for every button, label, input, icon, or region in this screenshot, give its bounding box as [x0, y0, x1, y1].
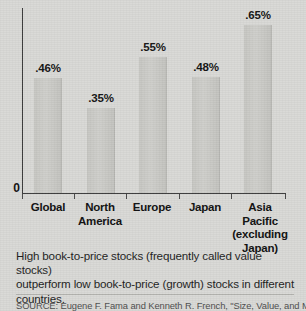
category-label-line: (excluding — [231, 228, 289, 242]
bar-value-north-america: .35% — [71, 92, 131, 104]
bar-north-america — [87, 108, 115, 193]
caption-line-1: High book-to-price stocks (frequently ca… — [16, 249, 294, 277]
bar-chart-figure: 0 .46% .35% .55% .48% .65% Global North … — [0, 0, 306, 311]
category-label-line: Europe — [126, 201, 178, 215]
x-axis-tick — [22, 194, 23, 199]
x-axis-tick — [231, 194, 232, 199]
bar-europe — [139, 57, 167, 193]
bar-global — [34, 78, 62, 193]
x-axis-tick — [179, 194, 180, 199]
category-label-global: Global — [22, 201, 74, 215]
category-label-line: Japan — [179, 201, 231, 215]
y-axis-line — [22, 8, 23, 194]
caption-divider — [16, 294, 294, 295]
caption-line-2: outperform low book-to-price (growth) st… — [16, 277, 294, 291]
category-label-japan: Japan — [179, 201, 231, 215]
category-label-north-america: North America — [74, 201, 126, 228]
category-label-line: North — [74, 201, 126, 215]
x-axis-tick — [74, 194, 75, 199]
bar-value-asia-pacific: .65% — [228, 9, 288, 21]
category-label-line: Global — [22, 201, 74, 215]
plot-area: 0 .46% .35% .55% .48% .65% — [0, 0, 306, 200]
bar-asia-pacific — [244, 25, 272, 193]
x-axis-line — [22, 193, 286, 194]
source-note: SOURCE: Eugene F. Fama and Kenneth R. Fr… — [16, 300, 306, 311]
bar-value-japan: .48% — [176, 61, 236, 73]
category-label-asia-pacific: Asia Pacific (excluding Japan) — [231, 201, 289, 255]
bar-value-global: .46% — [18, 62, 78, 74]
bar-japan — [192, 77, 220, 193]
y-axis-zero-label: 0 — [8, 182, 20, 195]
category-label-line: America — [74, 215, 126, 229]
x-axis-category-labels: Global North America Europe Japan Asia P… — [22, 201, 286, 249]
x-axis-tick — [126, 194, 127, 199]
bar-value-europe: .55% — [123, 41, 183, 53]
x-axis-tick — [285, 194, 286, 199]
category-label-europe: Europe — [126, 201, 178, 215]
category-label-line: Asia Pacific — [231, 201, 289, 228]
figure-caption: High book-to-price stocks (frequently ca… — [16, 249, 294, 306]
